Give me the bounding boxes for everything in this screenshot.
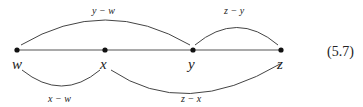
arc-label-z-minus-y: z − y: [223, 5, 245, 16]
point-y-label: y: [186, 56, 195, 72]
point-x-dot: [102, 47, 107, 52]
number-line-diagram: w x y z y − w z − y x − w z − x (5.7): [0, 0, 363, 107]
arc-label-y-minus-w: y − w: [91, 5, 115, 16]
point-z-label: z: [276, 56, 283, 72]
point-z-dot: [278, 47, 283, 52]
arc-x-minus-w: [22, 70, 100, 86]
point-w-dot: [14, 47, 19, 52]
equation-number: (5.7): [327, 44, 354, 60]
arc-z-minus-y: [195, 28, 278, 46]
arc-z-minus-x: [111, 64, 280, 94]
arc-y-minus-w: [21, 20, 190, 45]
arc-label-x-minus-w: x − w: [47, 93, 71, 104]
point-x-label: x: [99, 56, 107, 72]
point-y-dot: [190, 47, 195, 52]
point-w-label: w: [12, 56, 22, 72]
arc-label-z-minus-x: z − x: [180, 93, 202, 104]
